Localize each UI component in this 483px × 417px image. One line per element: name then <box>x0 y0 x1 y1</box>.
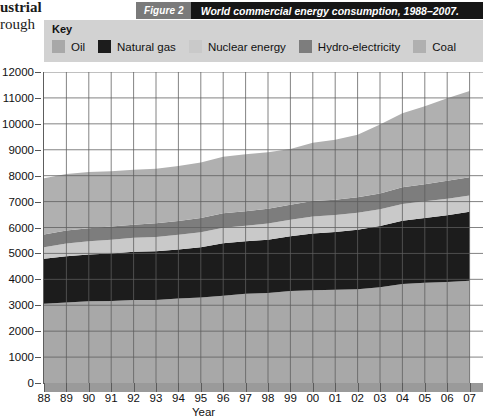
x-axis-title-label: Year <box>192 406 215 417</box>
y-axis-tick-mark <box>35 331 41 332</box>
legend-item-natural-gas[interactable]: Natural gas <box>98 40 176 53</box>
x-axis-tick-mark <box>425 383 426 392</box>
x-axis-band <box>44 383 483 392</box>
legend-item-label: Nuclear energy <box>208 41 286 53</box>
x-axis-tick-label: 96 <box>217 392 230 404</box>
x-axis-tick-mark <box>335 383 336 392</box>
y-axis-tick-label: 1000 <box>8 351 34 363</box>
legend-item-label: Natural gas <box>117 41 176 53</box>
x-axis-tick-label: 05 <box>418 392 431 404</box>
x-axis-tick-mark <box>402 383 403 392</box>
y-axis-tick-mark <box>35 150 41 151</box>
x-axis-tick-mark <box>470 383 471 392</box>
y-axis-tick-mark <box>35 305 41 306</box>
legend-swatch-icon <box>413 40 426 53</box>
x-axis-tick-label: 06 <box>441 392 454 404</box>
x-axis-tick-label: 89 <box>60 392 73 404</box>
x-axis-tick-label: 03 <box>374 392 387 404</box>
x-axis-tick-mark <box>447 383 448 392</box>
x-axis-tick-mark <box>246 383 247 392</box>
x-axis-tick-label: 02 <box>351 392 364 404</box>
legend-item-coal[interactable]: Coal <box>413 40 456 53</box>
x-axis-tick-label: 88 <box>38 392 51 404</box>
y-axis-tick-label: 4000 <box>8 273 34 285</box>
x-axis-tick-mark <box>111 383 112 392</box>
legend-item-hydro-electricity[interactable]: Hydro-electricity <box>299 40 400 53</box>
x-axis-title: Year <box>0 406 483 417</box>
legend-item-oil[interactable]: Oil <box>52 40 85 53</box>
y-axis-tick-label: 0 <box>28 377 34 389</box>
legend-swatch-icon <box>189 40 202 53</box>
stacked-area-chart <box>44 72 483 383</box>
x-axis-tick-label: 99 <box>284 392 297 404</box>
x-axis-tick-mark <box>89 383 90 392</box>
x-axis-tick-label: 92 <box>127 392 140 404</box>
chart-plot-area <box>44 72 483 383</box>
x-axis-tick-mark <box>134 383 135 392</box>
chart-legend: Key OilNatural gasNuclear energyHydro-el… <box>44 20 483 62</box>
x-axis-tick-mark <box>380 383 381 392</box>
x-axis-tick-label: 00 <box>306 392 319 404</box>
y-axis-tick-mark <box>35 176 41 177</box>
x-axis-tick-label: 90 <box>82 392 95 404</box>
legend-title: Key <box>52 23 72 35</box>
x-axis-tick-label: 94 <box>172 392 185 404</box>
y-axis-tick-mark <box>35 253 41 254</box>
x-axis-tick-label: 98 <box>262 392 275 404</box>
x-axis-tick-mark <box>268 383 269 392</box>
x-axis-tick-mark <box>358 383 359 392</box>
legend-swatch-icon <box>299 40 312 53</box>
y-axis-tick-mark <box>35 124 41 125</box>
y-axis-tick-label: 6000 <box>8 222 34 234</box>
y-axis-tick-mark <box>35 98 41 99</box>
y-axis-tick-label: 10000 <box>2 118 34 130</box>
y-axis-tick-label: 12000 <box>2 66 34 78</box>
y-axis-tick-label: 7000 <box>8 196 34 208</box>
x-axis-tick-label: 95 <box>194 392 207 404</box>
y-axis-tick-label: 9000 <box>8 144 34 156</box>
x-axis-tick-mark <box>201 383 202 392</box>
y-axis-tick-label: 2000 <box>8 325 34 337</box>
y-axis-tick-mark <box>35 383 41 384</box>
y-axis-tick-mark <box>35 228 41 229</box>
y-axis-tick-mark <box>35 72 41 73</box>
x-axis-tick-label: 04 <box>396 392 409 404</box>
x-axis-tick-label: 07 <box>463 392 476 404</box>
legend-item-label: Hydro-electricity <box>318 41 400 53</box>
page-bleed-text-line2: rough <box>0 15 46 34</box>
x-axis-tick-mark <box>223 383 224 392</box>
x-axis-tick-mark <box>290 383 291 392</box>
legend-item-nuclear-energy[interactable]: Nuclear energy <box>189 40 286 53</box>
y-axis-tick-label: 5000 <box>8 247 34 259</box>
legend-swatch-icon <box>52 40 65 53</box>
y-axis-tick-mark <box>35 202 41 203</box>
x-axis-tick-mark <box>66 383 67 392</box>
x-axis-tick-mark <box>44 383 45 392</box>
x-axis-tick-mark <box>156 383 157 392</box>
legend-item-label: Oil <box>71 41 85 53</box>
figure-caption-bar: Figure 2 World commercial energy consump… <box>136 2 483 19</box>
x-axis-tick-label: 91 <box>105 392 118 404</box>
figure-title: World commercial energy consumption, 198… <box>191 2 483 19</box>
x-axis-tick-label: 93 <box>150 392 163 404</box>
legend-item-label: Coal <box>432 41 456 53</box>
figure-number: Figure 2 <box>136 2 191 19</box>
y-axis-tick-mark <box>35 357 41 358</box>
x-axis-tick-label: 97 <box>239 392 252 404</box>
x-axis-tick-label: 01 <box>329 392 342 404</box>
y-axis-tick-label: 11000 <box>3 92 34 104</box>
x-axis-tick-mark <box>178 383 179 392</box>
legend-swatch-icon <box>98 40 111 53</box>
y-axis-tick-mark <box>35 279 41 280</box>
x-axis-tick-mark <box>313 383 314 392</box>
y-axis-tick-label: 3000 <box>8 299 34 311</box>
y-axis-ticks: 0100020003000400050006000700080009000100… <box>0 72 41 383</box>
y-axis-tick-label: 8000 <box>8 170 34 182</box>
legend-items: OilNatural gasNuclear energyHydro-electr… <box>52 40 483 53</box>
